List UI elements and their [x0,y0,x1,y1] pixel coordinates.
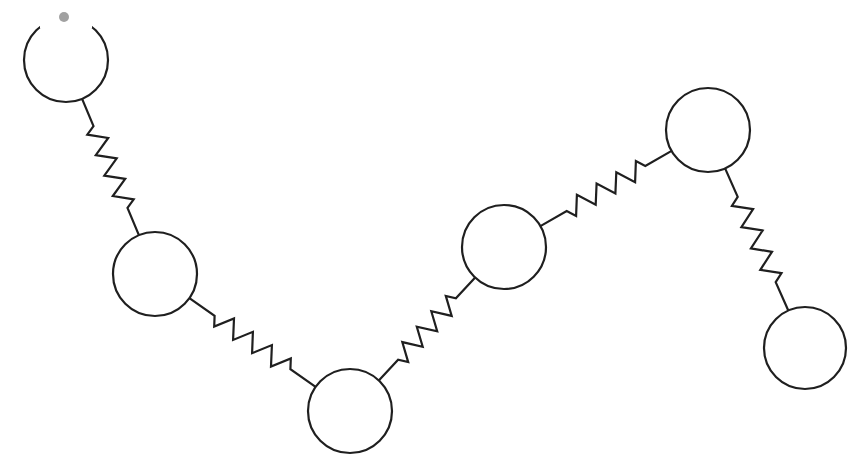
bead-1 [24,18,108,102]
spring-3-4 [379,278,475,381]
spring-2-3 [189,298,315,387]
bead-2 [113,232,197,316]
bead-3 [308,369,392,453]
smudge-top [59,12,69,22]
beads [24,18,846,453]
bead-5 [666,88,750,172]
spring-1-2 [82,99,139,235]
bead-spring-diagram [0,0,864,475]
scan-artifacts [40,12,92,28]
spring-4-5 [540,151,671,226]
spring-5-6 [725,168,788,310]
bead-6 [764,307,846,389]
bead-4 [462,205,546,289]
